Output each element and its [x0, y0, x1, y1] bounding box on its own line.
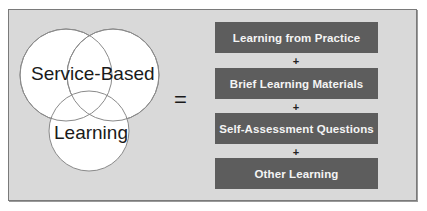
component-box-self-assessment-questions: Self-Assessment Questions — [215, 113, 378, 144]
equals-sign: = — [174, 89, 187, 111]
component-box-learning-from-practice: Learning from Practice — [215, 22, 378, 53]
plus-sign: + — [290, 102, 302, 113]
plus-sign: + — [290, 56, 302, 67]
venn-label-learning: Learning — [54, 122, 128, 144]
plus-sign: + — [290, 147, 302, 158]
component-box-brief-learning-materials: Brief Learning Materials — [215, 68, 378, 99]
venn-label-service-based: Service-Based — [31, 63, 155, 85]
component-box-other-learning: Other Learning — [215, 158, 378, 189]
